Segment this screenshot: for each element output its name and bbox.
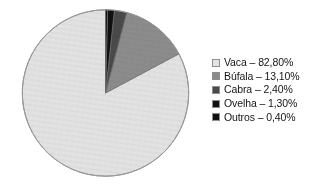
legend-swatch xyxy=(212,86,220,94)
pie-chart xyxy=(21,9,190,177)
legend-item-label: Outros – 0,40% xyxy=(224,112,296,123)
legend-item[interactable]: Outros – 0,40% xyxy=(212,110,322,124)
legend-item[interactable]: Cabra – 2,40% xyxy=(212,83,322,97)
pie-chart-figure: Vaca – 82,80%Búfala – 13,10%Cabra – 2,40… xyxy=(0,0,325,186)
legend-item-label: Cabra – 2,40% xyxy=(224,84,293,95)
legend: Vaca – 82,80%Búfala – 13,10%Cabra – 2,40… xyxy=(212,56,322,124)
legend-item-label: Vaca – 82,80% xyxy=(224,57,293,68)
legend-item-label: Ovelha – 1,30% xyxy=(224,98,297,109)
legend-item[interactable]: Vaca – 82,80% xyxy=(212,56,322,70)
pie-slice-group xyxy=(22,10,188,176)
legend-item[interactable]: Búfala – 13,10% xyxy=(212,70,322,84)
pie-chart-svg xyxy=(21,9,190,177)
legend-swatch xyxy=(212,100,220,108)
legend-swatch xyxy=(212,59,220,67)
legend-item-label: Búfala – 13,10% xyxy=(224,71,300,82)
legend-swatch xyxy=(212,113,220,121)
legend-swatch xyxy=(212,72,220,80)
legend-item[interactable]: Ovelha – 1,30% xyxy=(212,97,322,111)
